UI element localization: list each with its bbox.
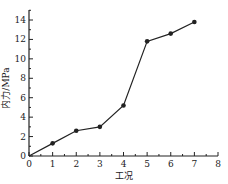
data-point-marker — [50, 141, 55, 146]
series-line — [29, 22, 194, 156]
y-tick-label: 6 — [20, 93, 26, 103]
y-tick-label: 10 — [15, 54, 27, 64]
x-tick-label: 7 — [192, 159, 198, 169]
x-tick-label: 1 — [50, 159, 56, 169]
x-tick-label: 5 — [144, 159, 150, 169]
y-tick-label: 0 — [20, 151, 26, 161]
data-point-marker — [145, 39, 150, 44]
x-tick-label: 2 — [73, 159, 79, 169]
data-point-marker — [121, 103, 126, 108]
y-axis-ticks: 02468101214 — [15, 10, 33, 161]
x-axis-title: 工况 — [115, 171, 133, 181]
y-tick-label: 12 — [15, 34, 26, 44]
y-tick-label: 14 — [15, 15, 27, 25]
data-series — [29, 20, 197, 156]
x-tick-label: 6 — [168, 159, 174, 169]
x-tick-label: 0 — [26, 159, 32, 169]
y-tick-label: 8 — [20, 73, 26, 83]
y-tick-label: 2 — [20, 132, 26, 142]
data-point-marker — [168, 31, 173, 36]
y-tick-label: 4 — [20, 112, 26, 122]
axes — [29, 10, 218, 156]
x-axis-ticks: 012345678 — [26, 152, 221, 169]
y-axis-title: 内力/MPa — [0, 67, 11, 109]
line-chart: 012345678 02468101214 工况 内力/MPa — [0, 0, 228, 184]
x-tick-label: 3 — [97, 159, 103, 169]
x-tick-label: 8 — [215, 159, 221, 169]
x-tick-label: 4 — [121, 159, 127, 169]
data-point-marker — [74, 128, 79, 133]
data-point-marker — [98, 125, 103, 130]
data-point-marker — [192, 20, 197, 25]
